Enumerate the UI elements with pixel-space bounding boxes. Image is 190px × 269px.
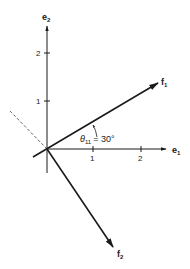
angle-label: θ11= 30° [80,134,115,145]
f2-label: f2 [117,249,124,260]
e2-tick-2-label: 2 [36,49,41,58]
f1-label: f1 [161,77,168,88]
basis-diagram: 1 2 1 2 e1 e2 f1 f2 θ11= 30° [0,0,190,269]
e1-tick-2-label: 2 [138,154,143,163]
dashed-perpendicular-line [10,111,47,149]
e2-tick-1-label: 1 [36,97,41,106]
e1-tick-1-label: 1 [90,154,95,163]
f2-vector [47,149,113,247]
e2-label: e2 [42,12,51,23]
f1-vector [33,83,158,157]
e1-label: e1 [172,145,181,156]
